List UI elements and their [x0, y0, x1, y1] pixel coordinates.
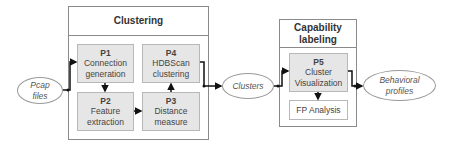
process-fp-analysis: FP Analysis: [289, 100, 348, 120]
process-label: FP Analysis: [296, 105, 340, 116]
pcap-files-input: Pcap files: [17, 77, 63, 104]
process-id: P2: [100, 96, 110, 107]
process-id: P5: [313, 57, 323, 68]
process-p3-distance-measure: P3 Distance measure: [142, 92, 200, 131]
process-label-line1: Connection: [84, 58, 127, 69]
process-label-line1: Feature: [91, 106, 120, 117]
process-p2-feature-extraction: P2 Feature extraction: [77, 92, 134, 131]
behavioral-profiles-output: Behavioral profiles: [363, 70, 436, 101]
pcap-label-line2: files: [32, 91, 47, 102]
process-label-line1: Cluster: [305, 67, 332, 78]
clustering-header: Clustering: [69, 7, 208, 36]
process-label-line2: clustering: [153, 69, 189, 80]
behavioral-label-line2: profiles: [386, 86, 413, 97]
process-label-line2: Visualization: [295, 78, 343, 89]
process-id: P1: [100, 48, 110, 59]
process-label-line1: HDBScan: [152, 58, 189, 69]
clusters-label: Clusters: [232, 81, 263, 92]
process-p4-hdbscan-clustering: P4 HDBScan clustering: [142, 44, 200, 83]
process-id: P3: [166, 96, 176, 107]
process-label-line2: generation: [85, 69, 125, 80]
capability-title-line1: Capability: [294, 22, 342, 34]
behavioral-label-line1: Behavioral: [379, 75, 419, 86]
capability-labeling-header: Capability labeling: [280, 20, 356, 48]
clusters-node: Clusters: [222, 73, 274, 99]
pcap-label-line1: Pcap: [30, 80, 49, 91]
process-p5-cluster-visualization: P5 Cluster Visualization: [289, 53, 348, 92]
process-label-line2: extraction: [87, 117, 124, 128]
process-p1-connection-generation: P1 Connection generation: [77, 44, 134, 83]
capability-title-line2: labeling: [299, 34, 337, 46]
clustering-title: Clustering: [114, 15, 163, 27]
process-id: P4: [166, 48, 176, 59]
process-label-line2: measure: [154, 117, 187, 128]
process-label-line1: Distance: [154, 106, 187, 117]
